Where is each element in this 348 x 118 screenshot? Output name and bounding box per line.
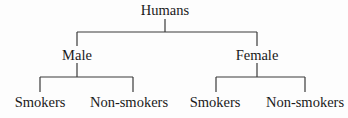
node-female: Female: [236, 48, 279, 63]
node-female-smokers: Smokers: [190, 95, 241, 110]
node-male-nonsmokers: Non-smokers: [90, 95, 168, 110]
root-node-humans: Humans: [141, 3, 189, 18]
tree-diagram: Humans Male Female Smokers Non-smokers S…: [0, 0, 348, 118]
node-male: Male: [62, 48, 92, 63]
node-female-nonsmokers: Non-smokers: [266, 95, 344, 110]
node-male-smokers: Smokers: [15, 95, 66, 110]
